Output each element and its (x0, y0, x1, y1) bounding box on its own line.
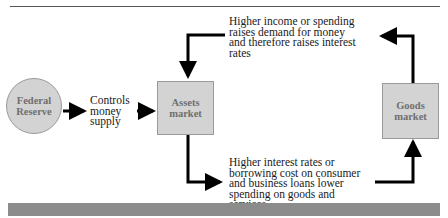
assets-market-node: Assets market (157, 81, 214, 135)
federal-reserve-label-line1: Federal (17, 95, 51, 106)
income-raises-interest-note: Higher income or spending raises demand … (229, 16, 356, 58)
connector-arrows (0, 0, 448, 218)
arrow-note-to-goods (375, 142, 413, 182)
arrow-assets-to-note (188, 133, 220, 182)
note-line: and business loans lower (229, 178, 360, 189)
bottom-bar (8, 203, 440, 216)
note-line: rates (229, 48, 356, 59)
goods-market-node: Goods market (382, 83, 439, 139)
assets-market-label-line2: market (169, 108, 202, 119)
arrow-note-to-assets (188, 35, 225, 76)
note-line: Higher interest rates or (229, 157, 360, 168)
federal-reserve-node: Federal Reserve (6, 78, 62, 134)
controls-money-supply-label: Controls money supply (90, 95, 130, 127)
assets-market-label-line1: Assets (172, 97, 200, 108)
note-line: Higher income or spending (229, 16, 356, 27)
federal-reserve-label-line2: Reserve (16, 106, 52, 117)
goods-market-label-line1: Goods (396, 100, 425, 111)
goods-market-label-line2: market (394, 111, 427, 122)
label-line: supply (90, 116, 130, 127)
interest-lowers-spending-note: Higher interest rates or borrowing cost … (229, 157, 360, 210)
label-line: Controls (90, 95, 130, 106)
arrow-goods-to-note (382, 36, 413, 83)
note-line: and therefore raises interest (229, 37, 356, 48)
